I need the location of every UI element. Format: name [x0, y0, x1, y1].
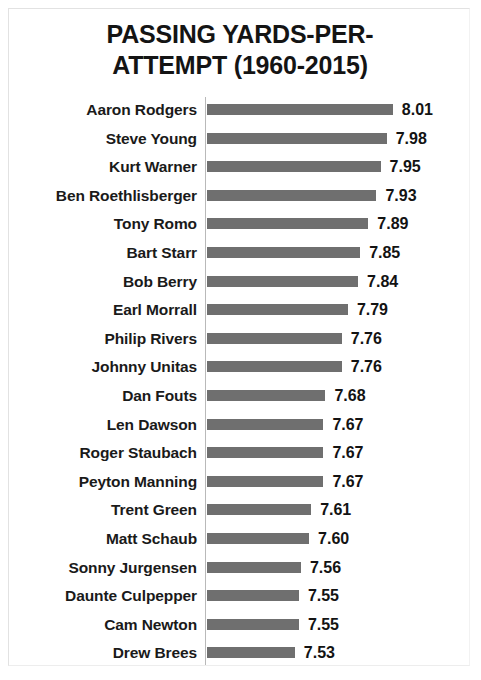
bar-row: Sonny Jurgensen7.56: [9, 553, 470, 582]
bar-category-label: Bart Starr: [127, 238, 198, 267]
bar-category-label: Ben Roethlisberger: [56, 181, 197, 210]
bar: [207, 361, 342, 372]
bar: [207, 647, 295, 658]
bar-category-label: Sonny Jurgensen: [68, 553, 197, 582]
bar-row: Roger Staubach7.67: [9, 438, 470, 467]
bar-row: Bob Berry7.84: [9, 267, 470, 296]
bar: [207, 390, 325, 401]
bar-category-label: Len Dawson: [107, 410, 197, 439]
bar-row: Drew Brees7.53: [9, 638, 470, 666]
bar: [207, 276, 358, 287]
bar-value-label: 7.56: [310, 553, 341, 582]
bar: [207, 218, 368, 229]
bar: [207, 247, 360, 258]
bar-row: Trent Green7.61: [9, 495, 470, 524]
bar-category-label: Cam Newton: [104, 610, 197, 639]
bar-category-label: Johnny Unitas: [92, 352, 198, 381]
bar-value-label: 7.84: [367, 267, 398, 296]
bar-value-label: 7.95: [390, 152, 421, 181]
bar-category-label: Tony Romo: [114, 209, 197, 238]
bar-category-label: Dan Fouts: [122, 381, 197, 410]
bar-category-label: Kurt Warner: [109, 152, 197, 181]
bar-value-label: 7.60: [318, 524, 349, 553]
bar: [207, 161, 381, 172]
bar-row: Matt Schaub7.60: [9, 524, 470, 553]
bar-row: Ben Roethlisberger7.93: [9, 181, 470, 210]
bar-row: Len Dawson7.67: [9, 410, 470, 439]
bar: [207, 590, 299, 601]
bar-row: Earl Morrall7.79: [9, 295, 470, 324]
bar: [207, 333, 342, 344]
bar-value-label: 7.85: [369, 238, 400, 267]
bar: [207, 133, 387, 144]
bar-category-label: Drew Brees: [113, 638, 197, 666]
bar: [207, 419, 323, 430]
bar-value-label: 8.01: [402, 95, 433, 124]
bar-row: Kurt Warner7.95: [9, 152, 470, 181]
bar-category-label: Daunte Culpepper: [65, 581, 197, 610]
bar-row: Philip Rivers7.76: [9, 324, 470, 353]
bar-category-label: Philip Rivers: [104, 324, 197, 353]
bar: [207, 619, 299, 630]
bar: [207, 562, 301, 573]
bar-category-label: Roger Staubach: [80, 438, 197, 467]
bar-category-label: Trent Green: [111, 495, 197, 524]
bar-row: Tony Romo7.89: [9, 209, 470, 238]
bar: [207, 504, 311, 515]
bar-row: Aaron Rodgers8.01: [9, 95, 470, 124]
chart-title-line-1: PASSING YARDS-PER-: [9, 19, 470, 50]
bar-value-label: 7.76: [351, 352, 382, 381]
bar-row: Steve Young7.98: [9, 124, 470, 153]
bar-category-label: Aaron Rodgers: [86, 95, 197, 124]
bar-value-label: 7.98: [396, 124, 427, 153]
bar-value-label: 7.79: [357, 295, 388, 324]
bar-row: Cam Newton7.55: [9, 610, 470, 639]
bar: [207, 304, 348, 315]
bar-category-label: Earl Morrall: [113, 295, 197, 324]
bar-value-label: 7.68: [334, 381, 365, 410]
bar-category-label: Peyton Manning: [79, 467, 197, 496]
bar: [207, 533, 309, 544]
bar-row: Johnny Unitas7.76: [9, 352, 470, 381]
plot-area: Aaron Rodgers8.01Steve Young7.98Kurt War…: [9, 93, 470, 665]
chart-card: PASSING YARDS-PER- ATTEMPT (1960-2015) A…: [8, 8, 470, 666]
bar-value-label: 7.55: [308, 581, 339, 610]
chart-title: PASSING YARDS-PER- ATTEMPT (1960-2015): [9, 19, 470, 81]
bar-row: Peyton Manning7.67: [9, 467, 470, 496]
bar-value-label: 7.55: [308, 610, 339, 639]
bar: [207, 190, 376, 201]
bar-value-label: 7.53: [304, 638, 335, 666]
bar-value-label: 7.67: [332, 438, 363, 467]
bar: [207, 104, 393, 115]
bar: [207, 447, 323, 458]
bar-category-label: Matt Schaub: [106, 524, 197, 553]
bar-row: Bart Starr7.85: [9, 238, 470, 267]
bar-value-label: 7.89: [377, 209, 408, 238]
bar-value-label: 7.76: [351, 324, 382, 353]
bar-row: Dan Fouts7.68: [9, 381, 470, 410]
bar-value-label: 7.93: [385, 181, 416, 210]
bar-category-label: Steve Young: [106, 124, 197, 153]
bar-category-label: Bob Berry: [123, 267, 197, 296]
chart-title-line-2: ATTEMPT (1960-2015): [9, 50, 470, 81]
bar-value-label: 7.61: [320, 495, 351, 524]
bar: [207, 476, 323, 487]
bar-row: Daunte Culpepper7.55: [9, 581, 470, 610]
bar-value-label: 7.67: [332, 410, 363, 439]
bar-value-label: 7.67: [332, 467, 363, 496]
